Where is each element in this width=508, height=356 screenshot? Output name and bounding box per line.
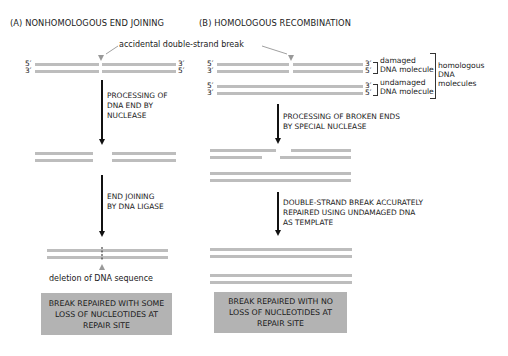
arrow-down-icon <box>275 230 281 236</box>
step-label: PROCESSING OF BROKEN ENDS BY SPECIAL NUC… <box>283 112 400 132</box>
dna-strand <box>280 156 351 159</box>
strand-end-label: 3′ <box>207 89 213 96</box>
dna-strand <box>217 92 363 95</box>
dna-strand <box>217 63 289 66</box>
step-label: DOUBLE-STRAND BREAK ACCURATELY REPAIRED … <box>283 198 423 228</box>
dna-strand <box>210 248 352 251</box>
strand-end-label: 5′ <box>365 89 371 96</box>
strand-end-label: 5′ <box>365 67 371 74</box>
dna-strand <box>291 149 351 152</box>
dna-strand <box>210 274 352 277</box>
strand-end-label: 3′ <box>207 67 213 74</box>
arrow-shaft <box>277 104 279 139</box>
dna-strand <box>210 281 352 284</box>
deletion-marker-icon <box>99 264 105 270</box>
dna-strand <box>217 70 289 73</box>
dna-strand <box>293 63 363 66</box>
homologous-label: homologous DNA molecules <box>438 61 485 88</box>
damaged-label: damaged DNA molecule <box>380 56 434 74</box>
arrow-shaft <box>277 192 279 231</box>
dna-strand <box>210 179 351 182</box>
dna-strand <box>293 70 363 73</box>
result-box-b: BREAK REPAIRED WITH NO LOSS OF NUCLEOTID… <box>214 292 347 333</box>
bracket <box>373 62 378 74</box>
dna-strand <box>210 149 276 152</box>
arrow-down-icon <box>275 138 281 144</box>
dna-strand <box>210 172 351 175</box>
bracket <box>430 53 436 99</box>
dna-strand <box>217 85 363 88</box>
result-box-a: BREAK REPAIRED WITH SOME LOSS OF NUCLEOT… <box>41 293 172 335</box>
dna-strand <box>210 255 352 258</box>
undamaged-label: undamaged DNA molecule <box>380 78 434 96</box>
dna-strand <box>210 156 262 159</box>
bracket <box>373 84 378 96</box>
deletion-label: deletion of DNA sequence <box>49 274 153 283</box>
